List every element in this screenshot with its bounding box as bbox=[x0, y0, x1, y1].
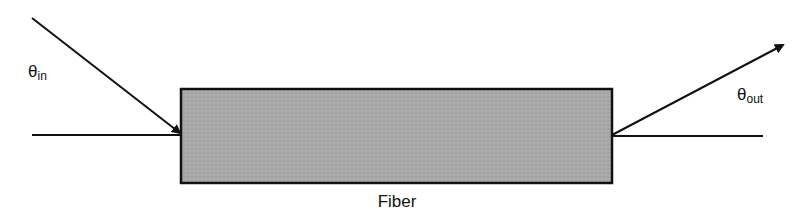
theta-out-label: θout bbox=[737, 85, 764, 106]
fiber-label: Fiber bbox=[378, 192, 417, 211]
fiber-block bbox=[181, 89, 612, 183]
theta-in-label: θin bbox=[28, 62, 47, 83]
incoming-ray-arrow bbox=[32, 18, 180, 133]
fiber-diagram: θin θout Fiber bbox=[0, 0, 811, 219]
outgoing-ray-arrow bbox=[612, 45, 783, 135]
